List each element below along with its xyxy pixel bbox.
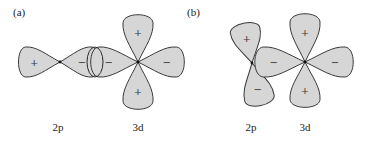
orbital-lobe xyxy=(255,47,305,77)
phase-sign: − xyxy=(270,57,278,68)
nucleus-node xyxy=(251,62,254,65)
orbital-label: 2p xyxy=(53,121,65,133)
orbital-label: 3d xyxy=(300,121,312,133)
panel-label: (b) xyxy=(187,6,200,19)
phase-sign: − xyxy=(331,57,339,68)
orbital-lobe xyxy=(91,47,138,77)
nucleus-node xyxy=(59,61,62,64)
phase-sign: − xyxy=(253,84,261,95)
phase-sign: + xyxy=(301,27,309,38)
phase-sign: + xyxy=(243,33,251,44)
phase-sign: + xyxy=(301,85,309,96)
orbital-lobe xyxy=(19,47,60,77)
phase-sign: + xyxy=(134,27,142,38)
nucleus-node xyxy=(137,61,140,64)
phase-sign: − xyxy=(78,57,86,68)
phase-sign: − xyxy=(163,57,171,68)
orbital-label: 2p xyxy=(246,121,258,133)
orbital-overlap-diagram: (a)+−2p++−−3d (b)+−2p++−−3d xyxy=(0,0,370,142)
orbital-label: 3d xyxy=(133,121,145,133)
orbital-3d: ++−−3d xyxy=(91,15,185,133)
panel-b: (b)+−2p++−−3d xyxy=(187,6,353,133)
phase-sign: + xyxy=(30,57,38,68)
phase-sign: − xyxy=(104,57,112,68)
panel-a: (a)+−2p++−−3d xyxy=(13,6,184,133)
panel-label: (a) xyxy=(13,6,26,19)
orbital-lobe xyxy=(138,47,184,77)
orbital-lobe xyxy=(305,47,353,77)
orbital-lobe xyxy=(290,14,320,62)
nucleus-node xyxy=(304,61,307,64)
orbital-lobe xyxy=(123,15,153,62)
orbital-3d: ++−−3d xyxy=(255,14,353,133)
phase-sign: + xyxy=(134,86,142,97)
